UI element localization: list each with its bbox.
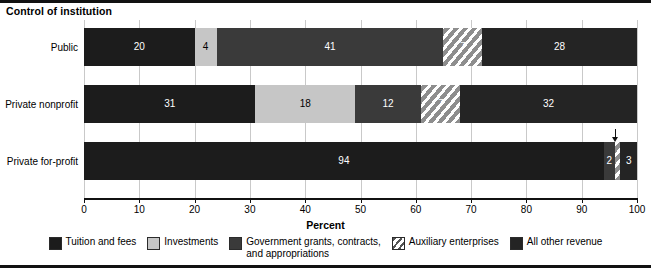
gridline-100 [637,20,638,198]
annotation-arrow-head [612,137,618,142]
legend-swatch-icon [229,237,242,250]
bar-segment-value: 32 [543,99,554,109]
legend-swatch-icon [49,237,62,250]
tick-label-70: 70 [456,204,486,215]
bar-segment[interactable]: 4 [195,28,217,66]
tick-label-30: 30 [235,204,265,215]
tick-label-60: 60 [401,204,431,215]
bar-segment-value: 41 [325,42,336,52]
legend-label: Investments [164,236,218,248]
tick-40 [305,198,306,203]
bar-segment-value: 2 [607,156,613,166]
bar-segment[interactable]: 20 [84,28,195,66]
legend-label: All other revenue [527,236,603,248]
bar-segment-value: 18 [300,99,311,109]
bar-segment[interactable]: 7 [421,85,460,123]
tick-label-20: 20 [180,204,210,215]
legend-label: Government grants, contracts, and approp… [246,236,381,259]
bar-row[interactable]: 9423 [84,142,637,180]
bar-segment-value: 3 [626,156,632,166]
bar-segment[interactable]: 3 [620,142,637,180]
bar-segment[interactable]: 12 [355,85,421,123]
legend-label: Auxiliary enterprises [409,236,499,248]
x-axis-title: Percent [0,219,651,231]
legend-item[interactable]: All other revenue [510,236,603,250]
tick-60 [416,198,417,203]
chart-legend: Tuition and feesInvestmentsGovernment gr… [0,236,651,262]
tick-20 [195,198,196,203]
bar-segment-value: 12 [383,99,394,109]
chart-title: Control of institution [6,5,112,17]
category-label: Public [0,42,78,53]
top-rule [0,0,651,3]
bar-segment[interactable]: 2 [604,142,615,180]
tick-50 [361,198,362,203]
tick-100 [637,198,638,203]
bar-segment[interactable]: 31 [84,85,255,123]
bar-segment[interactable]: 28 [482,28,637,66]
bar-segment-value: 20 [134,42,145,52]
legend-swatch-icon [147,237,160,250]
bar-segment[interactable]: 7 [443,28,482,66]
tick-90 [582,198,583,203]
tick-0 [84,198,85,203]
bottom-rule [0,265,651,268]
tick-label-90: 90 [567,204,597,215]
category-label: Private for-profit [0,156,78,167]
tick-30 [250,198,251,203]
legend-item[interactable]: Government grants, contracts, and approp… [229,236,381,259]
bar-row[interactable]: 20441728 [84,28,637,66]
legend-label: Tuition and fees [66,236,137,248]
legend-item[interactable]: Investments [147,236,218,250]
bar-row[interactable]: 311812732 [84,85,637,123]
bar-segment[interactable]: 41 [217,28,444,66]
tick-label-10: 10 [124,204,154,215]
tick-label-0: 0 [69,204,99,215]
category-label: Private nonprofit [0,99,78,110]
tick-label-80: 80 [511,204,541,215]
bar-segment[interactable]: 32 [460,85,637,123]
legend-swatch-icon [510,237,523,250]
bar-segment-value: 4 [203,42,209,52]
bar-segment-value: 28 [554,42,565,52]
tick-label-40: 40 [290,204,320,215]
legend-item[interactable]: Tuition and fees [49,236,137,250]
legend-item[interactable]: Auxiliary enterprises [392,236,499,250]
tick-label-50: 50 [346,204,376,215]
bar-segment-value: 7 [438,99,444,109]
tick-80 [526,198,527,203]
bar-segment-value: 31 [164,99,175,109]
bar-segment-value: 94 [338,156,349,166]
bar-segment[interactable]: 94 [84,142,604,180]
bar-segment[interactable]: 18 [255,85,355,123]
tick-label-100: 100 [622,204,651,215]
tick-10 [139,198,140,203]
bar-segment-value: 7 [460,42,466,52]
legend-swatch-icon [392,237,405,250]
tick-70 [471,198,472,203]
